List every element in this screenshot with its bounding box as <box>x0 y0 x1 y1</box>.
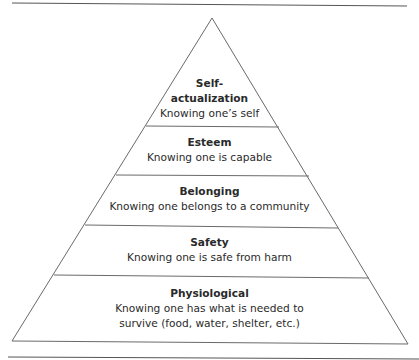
level-self-actualization: Self- actualization Knowing one’s self <box>0 76 419 121</box>
level-description: Knowing one’s self <box>0 106 419 121</box>
level-title-line2: actualization <box>0 91 419 106</box>
level-description-line2: survive (food, water, shelter, etc.) <box>0 316 419 331</box>
divider-1 <box>146 126 279 127</box>
level-belonging: Belonging Knowing one belongs to a commu… <box>0 184 419 214</box>
level-esteem: Esteem Knowing one is capable <box>0 135 419 165</box>
level-title: Physiological <box>0 286 419 301</box>
level-description: Knowing one has what is needed to <box>0 301 419 316</box>
bottom-rule <box>8 357 419 359</box>
level-safety: Safety Knowing one is safe from harm <box>0 235 419 265</box>
level-description: Knowing one is capable <box>0 150 419 165</box>
level-physiological: Physiological Knowing one has what is ne… <box>0 286 419 331</box>
level-title: Belonging <box>0 184 419 199</box>
level-title: Esteem <box>0 135 419 150</box>
level-title: Self- <box>0 76 419 91</box>
divider-4 <box>54 275 369 278</box>
level-description: Knowing one is safe from harm <box>0 250 419 265</box>
divider-2 <box>116 175 309 176</box>
top-rule <box>12 3 407 6</box>
level-title: Safety <box>0 235 419 250</box>
level-description: Knowing one belongs to a community <box>0 199 419 214</box>
divider-3 <box>85 225 338 228</box>
